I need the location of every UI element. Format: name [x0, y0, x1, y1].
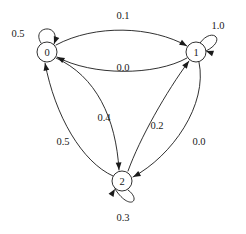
arrowhead-icon-2-0 [44, 63, 50, 71]
node-1[interactable]: 1 [186, 42, 206, 62]
node-label-0: 0 [44, 47, 49, 58]
edge-label-1-to-0: 0.0 [116, 62, 129, 73]
node-label-1: 1 [193, 47, 198, 58]
edge-label-0-to-1: 0.1 [116, 10, 129, 21]
arrowhead-icon-loop-2 [109, 189, 115, 197]
edge-1-to-2 [133, 62, 200, 177]
arrowhead-icon-2-1 [182, 61, 189, 69]
node-label-2: 2 [119, 176, 124, 187]
arrowhead-icon-loop-1 [206, 51, 214, 56]
self-loop-label-0: 0.5 [11, 28, 24, 39]
arrowhead-icon-0-1 [179, 40, 187, 46]
state-transition-diagram: 012 0.10.00.40.50.20.00.51.00.3 [0, 0, 246, 234]
edge-label-1-to-2: 0.0 [192, 136, 205, 147]
arrowhead-icon-1-2 [133, 171, 141, 177]
diagram-canvas: 012 0.10.00.40.50.20.00.51.00.3 [0, 0, 246, 234]
edge-label-2-to-1: 0.2 [150, 120, 163, 131]
edge-0-to-1 [56, 30, 187, 46]
edge-2-to-1 [128, 61, 189, 171]
self-loop-label-1: 1.0 [211, 20, 224, 31]
self-loop-label-2: 0.3 [116, 212, 129, 223]
arrowhead-icon-0-2 [116, 162, 122, 170]
node-0[interactable]: 0 [37, 42, 57, 62]
edges-layer [44, 30, 201, 177]
edge-label-0-to-2: 0.4 [97, 112, 111, 123]
arrowhead-icon-loop-0 [54, 36, 59, 44]
edge-label-2-to-0: 0.5 [56, 136, 69, 147]
node-2[interactable]: 2 [112, 171, 132, 191]
